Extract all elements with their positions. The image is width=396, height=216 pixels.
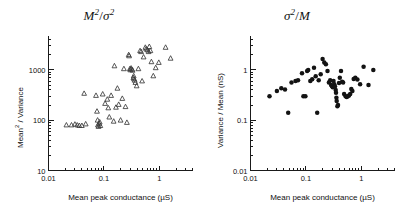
panel-left-xtick-label: 0.1 <box>99 174 109 183</box>
panel-left-markers <box>64 44 173 128</box>
panel-right-xaxis-title-units: (µS) <box>357 193 375 202</box>
panel-right-xtick-label: 1 <box>359 174 363 183</box>
panel-right-xtick-label: 0.1 <box>301 174 311 183</box>
panel-right-xaxis-title-text: Mean peak conductance <box>270 193 357 202</box>
panel-right-yaxis-title-text: Variance / Mean <box>216 90 225 148</box>
panel-left-yaxis-title-rest: / Variance <box>16 87 25 125</box>
panel-right-xaxis-title: Mean peak conductance (µS) <box>224 193 396 202</box>
panel-left-yaxis-title-text: Mean <box>16 128 25 148</box>
panel-left-yaxis-title: Mean2 / Variance <box>14 87 25 148</box>
panel-right-xtick-label: 0.01 <box>243 174 258 183</box>
panel-left-xticks <box>49 166 193 171</box>
figure-root: M2/σ2 101001000 0.010.11 Mean peak condu… <box>0 0 396 216</box>
panel-right: σ2/M 0.010.11 0.010.11 Mean peak conduct… <box>198 0 396 216</box>
panel-left: M2/σ2 101001000 0.010.11 Mean peak condu… <box>0 0 198 216</box>
panel-right-yaxis-title: Variance / Mean (nS) <box>216 73 225 148</box>
panel-right-yticks <box>251 40 256 171</box>
panel-left-xaxis-title: Mean peak conductance (µS) <box>22 193 220 202</box>
panel-right-yaxis-title-rest: (nS) <box>216 73 225 90</box>
panel-left-xaxis-title-text: Mean peak conductance <box>68 193 155 202</box>
panel-right-markers <box>267 57 375 115</box>
panel-left-xtick-label: 0.01 <box>41 174 56 183</box>
panel-left-xtick-label: 1 <box>157 174 161 183</box>
panel-right-xticks <box>251 166 395 171</box>
panel-left-yticks <box>49 40 54 171</box>
panel-left-yaxis-title-sup: 2 <box>14 125 20 128</box>
panel-right-axes <box>251 36 395 171</box>
panel-left-xaxis-title-units: (µS) <box>155 193 173 202</box>
panel-left-plot <box>0 0 198 216</box>
panel-right-plot <box>198 0 396 216</box>
panel-right-ytick-label: 0.01 <box>198 166 248 175</box>
panel-left-ytick-label: 10 <box>0 166 46 175</box>
panel-left-ytick-label: 1000 <box>0 65 46 74</box>
